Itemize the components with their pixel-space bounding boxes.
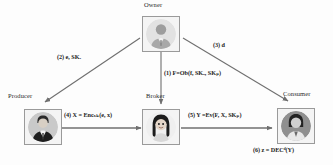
edge-label-6: (6) z = DECᵈ(Y)	[253, 146, 294, 153]
edge-label-4: (4) X = Encₛₖ(e, x)	[64, 111, 112, 118]
edge-owner-producer	[45, 38, 140, 102]
node-broker[interactable]	[142, 109, 180, 145]
businessman-avatar-icon	[146, 19, 176, 49]
edge-label-1: (1) F=Ob(f, SKₒ, SKₚ)	[164, 69, 221, 76]
person-avatar-icon	[281, 111, 311, 141]
node-producer[interactable]	[24, 109, 62, 145]
node-owner[interactable]	[142, 16, 180, 52]
edge-label-5: (5) Y =Ev(F, X, SKₚ)	[188, 111, 241, 118]
node-label-producer: Producer	[8, 92, 32, 99]
edge-label-3: (3) d	[213, 41, 225, 48]
node-label-consumer: Consumer	[283, 90, 311, 97]
node-consumer[interactable]	[277, 108, 315, 144]
edge-label-2: (2) e, SKₑ	[57, 53, 81, 60]
node-label-owner: Owner	[144, 1, 162, 8]
protocol-flow-diagram: Owner Producer Broker	[0, 0, 333, 165]
node-label-broker: Broker	[146, 92, 165, 99]
businessman-avatar-icon	[28, 112, 58, 142]
businesswoman-avatar-icon	[146, 112, 176, 142]
